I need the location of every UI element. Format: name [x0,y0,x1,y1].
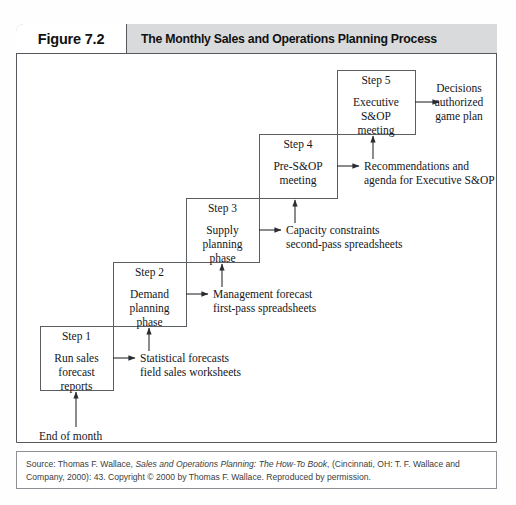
step-5-title: Step 5 [337,74,415,86]
step-4-body-line-1: Pre-S&OP [259,159,337,173]
entry-label: End of month [39,429,102,443]
step-3-output-line-1: Capacity constraints [286,223,403,237]
step-1-output: Statistical forecasts field sales worksh… [140,351,241,379]
step-5-output-line-2: authorized [426,95,492,109]
step-3-title: Step 3 [186,202,259,214]
step-4-output-line-2: agenda for Executive S&OP [364,173,495,187]
step-1-title: Step 1 [40,330,113,342]
step-2-body-line-3: phase [113,315,186,329]
process-diagram: Step 1 Run sales forecast reports Statis… [16,55,497,443]
step-5-body-line-1: Executive [337,95,415,109]
step-2-output-line-1: Management forecast [213,287,316,301]
step-5-output-line-1: Decisions [426,81,492,95]
figure-title: The Monthly Sales and Operations Plannin… [127,24,497,53]
step-3-body-line-3: phase [186,251,259,265]
step-2-output: Management forecast first-pass spreadshe… [213,287,316,315]
step-5-body-line-3: meeting [337,123,415,137]
step-5-body: Executive S&OP meeting [337,95,415,138]
step-4-title: Step 4 [259,138,337,150]
step-1-output-line-1: Statistical forecasts [140,351,241,365]
step-2-body-line-2: planning [113,301,186,315]
step-3-body: Supply planning phase [186,223,259,266]
source-prefix: Source: Thomas F. Wallace, [26,459,135,469]
step-5-body-line-2: S&OP [337,109,415,123]
step-3-output: Capacity constraints second-pass spreads… [286,223,403,251]
figure-header: Figure 7.2 The Monthly Sales and Operati… [16,24,497,54]
step-2-output-line-2: first-pass spreadsheets [213,301,316,315]
step-3-body-line-1: Supply [186,223,259,237]
step-3-output-line-2: second-pass spreadsheets [286,237,403,251]
step-1-body-line-1: Run sales [40,351,113,365]
step-4-output: Recommendations and agenda for Executive… [364,159,495,187]
step-1-output-line-2: field sales worksheets [140,365,241,379]
step-2-body: Demand planning phase [113,287,186,330]
figure-page: Figure 7.2 The Monthly Sales and Operati… [0,0,516,505]
step-4-body-line-2: meeting [259,173,337,187]
figure-number-label: Figure 7.2 [16,24,127,53]
step-4-output-line-1: Recommendations and [364,159,495,173]
step-5-output-line-3: game plan [426,109,492,123]
source-title: Sales and Operations Planning: The How-T… [135,459,327,469]
step-2-title: Step 2 [113,266,186,278]
step-1-body-line-3: reports [40,379,113,393]
step-1-body-line-2: forecast [40,365,113,379]
step-3-body-line-2: planning [186,237,259,251]
step-1-body: Run sales forecast reports [40,351,113,394]
figure-source: Source: Thomas F. Wallace, Sales and Ope… [16,451,497,489]
step-4-body: Pre-S&OP meeting [259,159,337,187]
step-2-body-line-1: Demand [113,287,186,301]
step-5-output: Decisions authorized game plan [426,81,492,124]
